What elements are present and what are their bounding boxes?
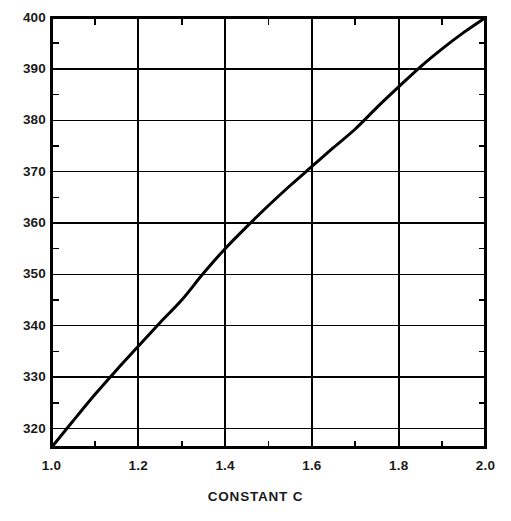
x-tick-label: 1.8: [389, 459, 408, 473]
plot-border: [52, 18, 486, 448]
y-tick-label: 370: [6, 165, 46, 179]
data-series-layer: [52, 18, 486, 448]
horizontal-gridlines: [52, 69, 486, 429]
y-tick-label: 360: [6, 216, 46, 230]
vertical-gridlines: [138, 18, 398, 448]
x-tick-label: 1.4: [215, 459, 234, 473]
plot-area-svg: [0, 0, 511, 521]
y-tick-label: 350: [6, 268, 46, 282]
y-tick-label: 330: [6, 370, 46, 384]
y-tick-label: 320: [6, 422, 46, 436]
chart-figure: 320330340350360370380390400 1.01.21.41.6…: [0, 0, 511, 521]
y-tick-label: 400: [6, 11, 46, 25]
x-axis-title: CONSTANT C: [0, 489, 511, 504]
y-tick-label: 340: [6, 319, 46, 333]
x-tick-label: 1.0: [42, 459, 61, 473]
x-tick-label: 2.0: [476, 459, 495, 473]
plot-frame: [52, 18, 486, 448]
data-curve: [52, 18, 486, 448]
axis-ticks: [52, 18, 486, 448]
y-tick-label: 390: [6, 62, 46, 76]
y-tick-label: 380: [6, 113, 46, 127]
x-tick-label: 1.6: [302, 459, 321, 473]
x-tick-label: 1.2: [129, 459, 148, 473]
